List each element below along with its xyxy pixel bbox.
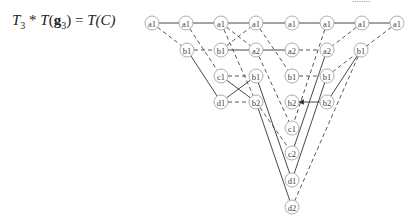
node-b1: b1 — [354, 43, 368, 57]
node-a2: a2 — [285, 43, 299, 57]
node-b1: b1 — [214, 43, 228, 57]
node-d1: d1 — [214, 95, 228, 109]
node-b1: b1 — [320, 69, 334, 83]
node-b2: b2 — [249, 95, 263, 109]
node-a1: a1 — [355, 16, 369, 30]
nodes-layer: a1a1a1a1a1a1a1a1b1b1a2a2a2b1c1b1b1b1d1b2… — [145, 16, 404, 214]
svg-text:b1: b1 — [357, 46, 366, 56]
svg-text:a1: a1 — [358, 19, 366, 29]
node-b1: b1 — [285, 69, 299, 83]
node-a1: a1 — [249, 16, 263, 30]
node-d2: d2 — [285, 200, 299, 214]
svg-text:d2: d2 — [288, 203, 297, 213]
svg-text:b2: b2 — [323, 98, 332, 108]
svg-text:b2: b2 — [288, 98, 297, 108]
node-c1: c1 — [285, 121, 299, 135]
edge-dashed — [259, 56, 289, 121]
svg-text:c2: c2 — [288, 149, 296, 159]
node-b2: b2 — [285, 95, 299, 109]
edge-dashed — [224, 29, 253, 95]
svg-text:b1: b1 — [288, 72, 297, 82]
edge-dashed — [333, 27, 357, 45]
svg-text:a2: a2 — [323, 46, 331, 56]
graph-diagram: a1a1a1a1a1a1a1a1b1b1a2a2a2b1c1b1b1b1d1b2… — [0, 0, 410, 220]
edge-solid — [331, 56, 357, 96]
svg-text:a1: a1 — [252, 19, 260, 29]
svg-text:c1: c1 — [288, 124, 296, 134]
edge-dashed — [158, 27, 182, 45]
svg-text:b1: b1 — [323, 72, 332, 82]
svg-text:b2: b2 — [252, 98, 261, 108]
svg-text:a1: a1 — [182, 19, 190, 29]
svg-text:b1: b1 — [183, 46, 192, 56]
svg-text:b1: b1 — [252, 72, 261, 82]
svg-text:d1: d1 — [288, 176, 297, 186]
node-a1: a1 — [320, 16, 334, 30]
node-a2: a2 — [320, 43, 334, 57]
svg-text:a2: a2 — [252, 46, 260, 56]
svg-text:b1: b1 — [217, 46, 226, 56]
svg-text:a1: a1 — [217, 19, 225, 29]
node-c1: c1 — [214, 69, 228, 83]
node-a2: a2 — [249, 43, 263, 57]
edge-dashed — [260, 108, 288, 148]
node-d1: d1 — [285, 173, 299, 187]
edge-solid — [191, 56, 217, 96]
svg-text:a1: a1 — [393, 19, 401, 29]
node-a1: a1 — [285, 16, 299, 30]
svg-text:a2: a2 — [288, 46, 296, 56]
node-a1: a1 — [214, 16, 228, 30]
node-c2: c2 — [285, 146, 299, 160]
svg-text:c1: c1 — [217, 72, 225, 82]
node-b1: b1 — [249, 69, 263, 83]
svg-text:a1: a1 — [288, 19, 296, 29]
node-b1: b1 — [180, 43, 194, 57]
node-b2: b2 — [320, 95, 334, 109]
node-a1: a1 — [179, 16, 193, 30]
svg-text:a1: a1 — [148, 19, 156, 29]
edge-dashed — [260, 29, 288, 70]
svg-text:a1: a1 — [323, 19, 331, 29]
node-a1: a1 — [390, 16, 404, 30]
svg-text:d1: d1 — [217, 98, 226, 108]
node-a1: a1 — [145, 16, 159, 30]
